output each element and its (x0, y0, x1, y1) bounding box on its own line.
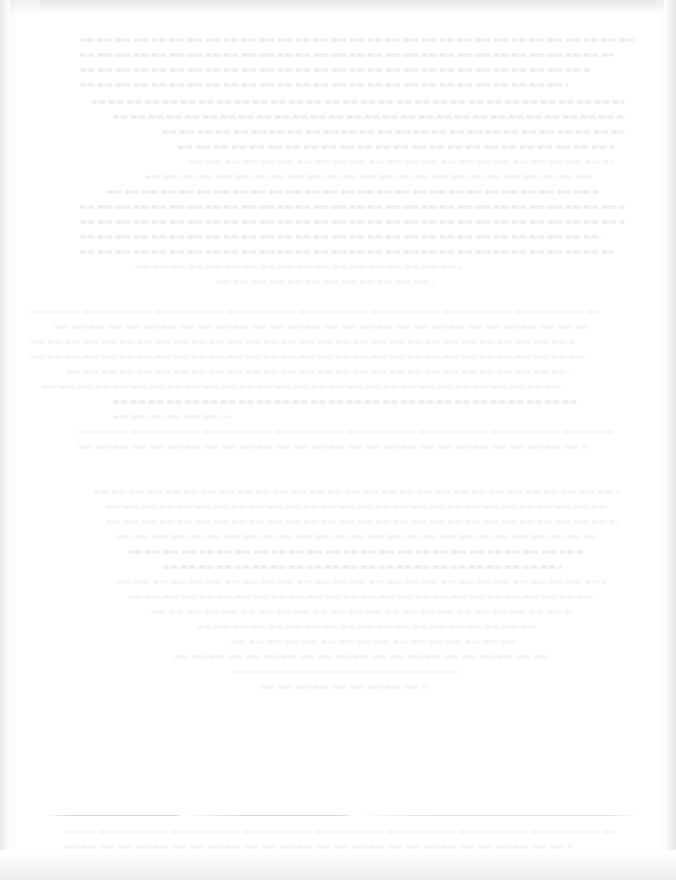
text-line (151, 610, 573, 614)
footnote-block (40, 830, 640, 860)
text-line (78, 445, 590, 449)
text-line (178, 145, 614, 149)
header-line (80, 68, 591, 72)
text-line (106, 505, 608, 509)
text-line (80, 205, 625, 209)
text-line (145, 175, 592, 179)
text-line (42, 385, 566, 389)
text-line (80, 235, 603, 239)
text-line (260, 685, 431, 689)
text-line (231, 640, 516, 644)
page-left-edge-shadow (0, 0, 10, 880)
text-line (30, 355, 589, 359)
text-line (216, 280, 434, 284)
footnote-line (64, 845, 574, 849)
text-line (189, 160, 614, 164)
text-line (162, 130, 625, 134)
text-line (117, 580, 607, 584)
text-line (91, 100, 625, 104)
text-line (163, 565, 562, 569)
text-line (107, 190, 598, 194)
paragraph (80, 100, 625, 295)
header-line (80, 53, 613, 57)
text-line (80, 250, 614, 254)
page-top-edge-shadow (40, 0, 656, 14)
text-line (66, 370, 572, 374)
footnote-line (64, 830, 616, 834)
footnote-separator (45, 815, 640, 816)
paragraph (30, 310, 625, 460)
text-line (30, 310, 601, 314)
header-line (80, 83, 568, 87)
page-right-edge-shadow (664, 0, 676, 880)
text-line (113, 115, 625, 119)
header-block (80, 38, 635, 98)
text-line (54, 325, 590, 329)
text-line (113, 400, 577, 404)
text-line (94, 490, 618, 494)
text-line (135, 265, 462, 269)
text-line (117, 535, 596, 539)
paragraph (60, 490, 630, 700)
text-line (113, 415, 232, 419)
text-line (30, 340, 577, 344)
text-line (197, 625, 539, 629)
header-line (80, 38, 635, 42)
scanned-page (0, 0, 676, 880)
text-line (80, 220, 625, 224)
text-line (128, 550, 584, 554)
text-line (128, 595, 595, 599)
text-line (174, 655, 550, 659)
text-line (106, 520, 619, 524)
text-line (78, 430, 614, 434)
text-line (231, 670, 459, 674)
